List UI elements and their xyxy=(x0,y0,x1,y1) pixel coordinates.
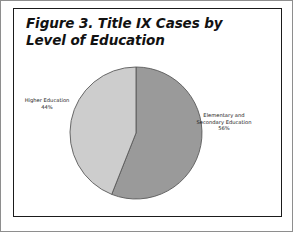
pie-label-elementary-and-secondary-education: Elementary and Secondary Education 56% xyxy=(186,112,262,132)
pie-label-higher-education: Higher Education 44% xyxy=(14,97,80,110)
figure-container: Figure 3. Title IX Cases by Level of Edu… xyxy=(0,0,293,232)
pie-chart-svg xyxy=(69,66,203,200)
pie-chart xyxy=(69,66,203,200)
figure-title: Figure 3. Title IX Cases by Level of Edu… xyxy=(26,15,258,49)
